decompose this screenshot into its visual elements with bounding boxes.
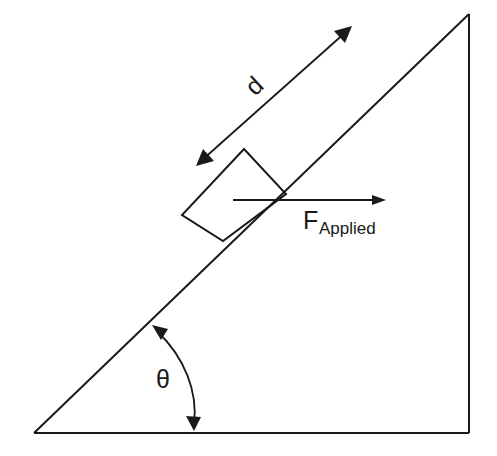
displacement-arrow: d xyxy=(196,26,352,166)
inclined-plane-diagram: d F Applied θ xyxy=(0,0,497,456)
applied-force-symbol: F xyxy=(303,206,318,234)
diagram-canvas: d F Applied θ xyxy=(0,0,497,456)
angle-arc-head-upper xyxy=(152,325,168,340)
applied-force-arrow-head xyxy=(372,195,386,205)
angle-arc-head-lower xyxy=(186,416,201,431)
displacement-arrow-shaft xyxy=(201,31,347,161)
angle-label: θ xyxy=(156,365,170,393)
applied-force-subscript: Applied xyxy=(319,219,376,238)
displacement-label: d xyxy=(239,70,268,100)
angle-theta: θ xyxy=(152,325,201,431)
